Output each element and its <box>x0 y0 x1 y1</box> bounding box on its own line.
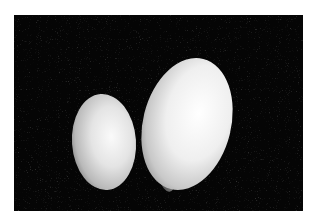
photo-canvas <box>14 15 303 211</box>
egg-photograph <box>14 15 303 211</box>
